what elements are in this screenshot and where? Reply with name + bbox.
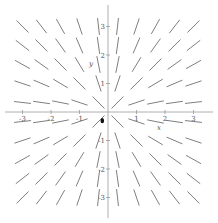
slope-segment (16, 173, 29, 183)
slope-segment (187, 20, 199, 32)
slope-segment (147, 120, 164, 123)
slope-segment (56, 190, 64, 205)
slope-segment (167, 80, 183, 87)
slope-segment (56, 172, 66, 186)
slope-segment (77, 189, 82, 205)
slope-segment (34, 137, 50, 144)
x-tick-label: 1 (134, 115, 138, 123)
slope-segment (35, 172, 47, 184)
x-tick-label: 2 (163, 115, 167, 123)
slope-segment (130, 77, 142, 89)
slope-segment (134, 189, 139, 205)
direction-field-chart: -3-2-1123-3-2-1123xy (0, 0, 218, 223)
slope-segment (185, 81, 201, 86)
slope-segment (52, 101, 69, 104)
slope-segment (166, 101, 183, 103)
slope-segment (35, 60, 49, 70)
x-tick-label: -3 (19, 115, 26, 123)
slope-segment (73, 134, 85, 146)
slope-segment (111, 96, 123, 108)
x-axis-label: x (157, 124, 161, 132)
slope-segment (169, 191, 179, 204)
slope-segment (151, 172, 161, 186)
slope-segment (132, 152, 141, 167)
slope-segment (186, 60, 201, 68)
slope-segment (167, 137, 183, 144)
slope-segment (186, 155, 201, 163)
slope-segment (116, 170, 118, 187)
slope-segment (128, 100, 144, 105)
slope-segment (149, 58, 161, 70)
slope-segment (116, 151, 119, 168)
slope-segment (52, 120, 69, 123)
slope-segment (117, 18, 119, 35)
slope-segment (168, 172, 180, 184)
slope-segment (130, 134, 142, 146)
slope-segment (151, 39, 161, 53)
point-marker (101, 118, 105, 123)
slope-segment (168, 39, 180, 51)
slope-segment (35, 155, 49, 165)
slope-segment (151, 190, 159, 205)
slope-segment (187, 173, 200, 183)
slope-segment (115, 132, 120, 148)
slope-segment (36, 20, 46, 33)
x-tick-label: -1 (76, 115, 83, 123)
slope-segment (187, 40, 200, 50)
y-axis-label: y (88, 60, 94, 68)
slope-segment (168, 60, 182, 70)
plot-area: -3-2-1123-3-2-1123xy (0, 0, 218, 223)
slope-segment (34, 80, 50, 87)
slope-segment (15, 60, 30, 68)
slope-segment (148, 136, 163, 145)
slope-segment (185, 102, 202, 104)
slope-segment (151, 19, 159, 34)
y-tick-label: 3 (101, 23, 105, 31)
slope-segment (116, 37, 118, 54)
slope-segment (56, 19, 64, 34)
y-tick-label: -1 (98, 137, 105, 145)
slope-segment (16, 191, 28, 203)
slope-segment (115, 75, 120, 91)
x-tick-label: 3 (191, 115, 195, 123)
slope-segment (35, 39, 47, 51)
slope-segment (133, 171, 140, 187)
y-tick-label: 1 (101, 80, 105, 88)
y-tick-label: -2 (98, 166, 105, 174)
slope-segment (75, 57, 84, 72)
slope-segment (148, 79, 163, 88)
slope-segment (111, 115, 123, 127)
slope-segment (15, 155, 30, 163)
slope-segment (16, 40, 29, 50)
slope-segment (147, 101, 164, 104)
slope-segment (76, 38, 83, 54)
slope-segment (54, 153, 66, 165)
slope-segment (97, 37, 99, 54)
slope-segment (166, 120, 183, 122)
slope-segment (14, 81, 30, 86)
slope-segment (132, 57, 141, 72)
slope-segment (76, 171, 83, 187)
slope-segment (134, 18, 139, 34)
y-tick-label: -3 (98, 194, 105, 202)
slope-segment (73, 77, 85, 89)
slope-segment (77, 18, 82, 34)
slope-segment (75, 152, 84, 167)
slope-segment (168, 155, 182, 165)
slope-segment (185, 138, 201, 143)
slope-segment (56, 39, 66, 53)
slope-segment (36, 191, 46, 204)
y-tick-label: 2 (101, 52, 105, 60)
slope-segment (98, 18, 100, 35)
slope-segment (16, 20, 28, 32)
slope-segment (116, 56, 119, 73)
slope-segment (149, 153, 161, 165)
slope-segment (117, 189, 119, 206)
slope-segment (33, 101, 50, 103)
slope-segment (133, 38, 140, 54)
slope-segment (53, 79, 68, 88)
slope-segment (54, 58, 66, 70)
x-tick-label: -2 (48, 115, 55, 123)
slope-segment (71, 100, 87, 105)
slope-segment (169, 20, 179, 33)
